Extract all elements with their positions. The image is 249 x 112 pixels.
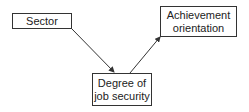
node-achievement-line-1: Achievement	[167, 9, 231, 22]
node-achievement-orientation: Achievement orientation	[160, 6, 237, 37]
node-degree-of-job-security: Degree of job security	[92, 73, 152, 106]
node-degree-line-1: Degree of	[94, 77, 150, 90]
node-degree-line-2: job security	[94, 90, 150, 103]
node-sector: Sector	[12, 13, 72, 29]
edge-degree-to-achievement	[130, 37, 160, 73]
node-sector-label: Sector	[26, 15, 58, 28]
edge-sector-to-degree	[72, 29, 114, 72]
node-achievement-line-2: orientation	[167, 22, 231, 35]
